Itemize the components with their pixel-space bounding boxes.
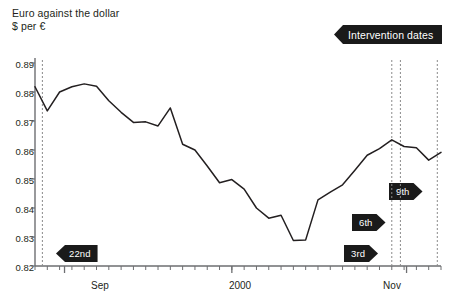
data-line-usd-per-eur [35, 84, 441, 241]
chart-plot-svg [0, 0, 454, 299]
chart-container: Euro against the dollar $ per € Interven… [0, 0, 454, 299]
